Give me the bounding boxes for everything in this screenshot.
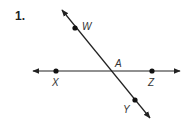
label-a: A — [114, 58, 122, 69]
point-w — [72, 25, 77, 30]
point-z — [149, 68, 154, 73]
label-w: W — [82, 21, 93, 32]
intersecting-lines-diagram: W X Z Y A — [0, 0, 190, 125]
label-y: Y — [123, 104, 131, 115]
point-y — [132, 97, 137, 102]
point-x — [53, 68, 58, 73]
label-x: X — [51, 77, 59, 88]
label-z: Z — [147, 77, 155, 88]
